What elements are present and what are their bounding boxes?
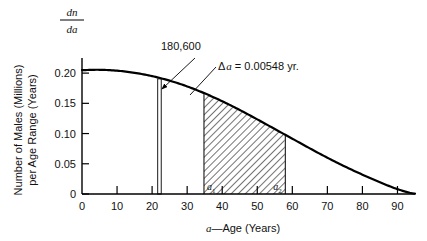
delta-a-label: Δa= 0.00548 yr.: [218, 60, 299, 72]
y-tick-label: 0.05: [55, 158, 76, 170]
x-tick-label: 30: [181, 200, 193, 212]
chart-canvas: 00.050.100.150.20 0102030405060708090 dn…: [0, 0, 427, 241]
y-tick-label: 0.20: [55, 67, 76, 79]
y-axis-symbol: dn da: [60, 6, 84, 35]
y-axis-tick-labels: 00.050.100.150.20: [55, 67, 76, 200]
x-axis-tick-labels: 0102030405060708090: [79, 200, 404, 212]
x-tick-label: 40: [216, 200, 228, 212]
x-tick-label: 80: [356, 200, 368, 212]
delta-a-leader: [190, 67, 216, 95]
annotation-population-count: 180,600: [161, 40, 201, 89]
hatched-region: [204, 93, 285, 194]
population-count-label: 180,600: [161, 40, 201, 52]
delta-a-strip: [158, 79, 162, 194]
x-axis-title-text: a—Age (Years): [206, 222, 280, 234]
x-tick-label: 90: [391, 200, 403, 212]
x-tick-label: 50: [251, 200, 263, 212]
y-tick-label: 0.10: [55, 128, 76, 140]
figure-container: 00.050.100.150.20 0102030405060708090 dn…: [0, 0, 427, 241]
y-axis-symbol-numerator: dn: [67, 6, 79, 18]
y-axis-symbol-denominator: da: [67, 23, 79, 35]
y-axis-ticks: [82, 73, 89, 194]
x-tick-label: 70: [321, 200, 333, 212]
x-tick-label: 20: [146, 200, 158, 212]
y-axis-title: Number of Males (Millions) per Age Range…: [12, 65, 38, 196]
y-axis-title-line1: Number of Males (Millions): [12, 65, 24, 196]
x-axis-title: a—Age (Years): [206, 222, 280, 234]
y-axis-title-line2: per Age Range (Years): [26, 74, 38, 186]
x-tick-label: 0: [79, 200, 85, 212]
x-tick-label: 10: [111, 200, 123, 212]
y-tick-label: 0.15: [55, 97, 76, 109]
y-tick-label: 0: [70, 188, 76, 200]
x-tick-label: 60: [286, 200, 298, 212]
